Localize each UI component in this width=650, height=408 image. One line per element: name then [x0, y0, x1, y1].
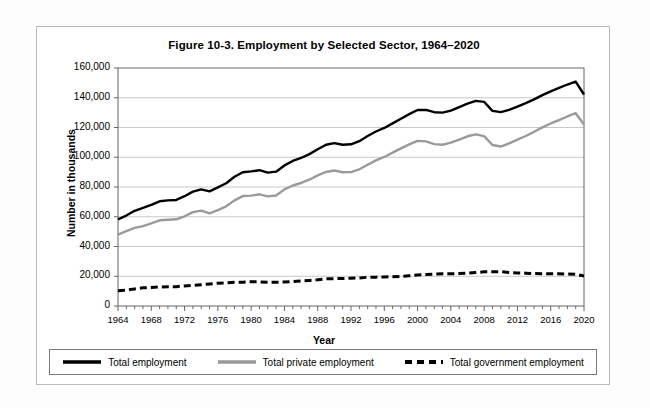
plot-area [37, 27, 611, 347]
series-line [118, 82, 584, 220]
legend: Total employmentTotal private employment… [49, 349, 597, 375]
legend-item[interactable]: Total private employment [217, 357, 374, 368]
legend-item[interactable]: Total employment [62, 357, 186, 368]
series-lines [118, 82, 584, 291]
gridlines [118, 98, 584, 277]
legend-label: Total employment [108, 357, 186, 368]
legend-swatch-icon [62, 357, 102, 367]
x-minor-ticks [118, 306, 584, 311]
legend-swatch-icon [404, 357, 444, 367]
legend-label: Total private employment [263, 357, 374, 368]
figure-frame: Figure 10-3. Employment by Selected Sect… [36, 26, 610, 385]
page-background: Figure 10-3. Employment by Selected Sect… [0, 0, 650, 408]
axis-major-ticks [114, 68, 118, 306]
legend-item[interactable]: Total government employment [404, 357, 584, 368]
series-line [118, 272, 584, 291]
legend-swatch-icon [217, 357, 257, 367]
legend-label: Total government employment [450, 357, 584, 368]
